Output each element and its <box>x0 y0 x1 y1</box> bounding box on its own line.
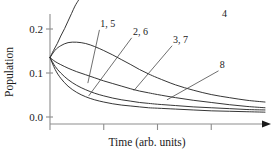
y-tick-label: 0.1 <box>29 67 43 79</box>
y-tick-label: 0.2 <box>29 23 43 35</box>
curve-label-8: 8 <box>220 59 225 70</box>
x-axis-title: Time (arb. units) <box>108 136 185 149</box>
curve-label-4: 4 <box>222 8 227 19</box>
figure-panel: 0.00.10.2 41, 52, 63, 78 Time (arb. unit… <box>0 0 277 151</box>
y-axis-title: Population <box>3 47 16 97</box>
curve-label-3-7: 3, 7 <box>173 34 188 45</box>
curve-label-2-6: 2, 6 <box>133 26 148 37</box>
y-tick-label: 0.0 <box>29 111 43 123</box>
curve-label-1-5: 1, 5 <box>100 18 115 29</box>
population-vs-time-chart: 0.00.10.2 41, 52, 63, 78 Time (arb. unit… <box>0 0 277 151</box>
